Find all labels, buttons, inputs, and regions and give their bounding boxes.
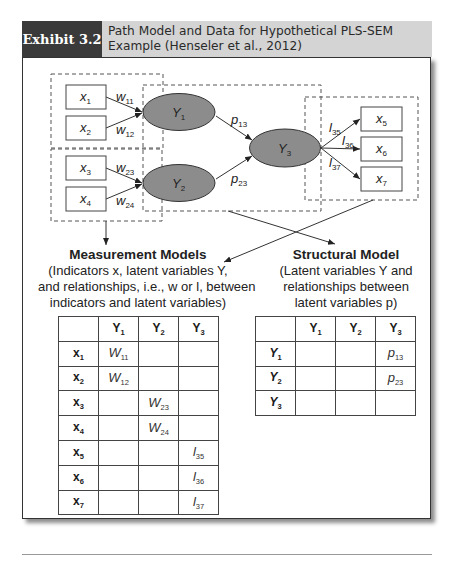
table-cell: p13 (376, 341, 416, 366)
structural-model-line-3: latent variables p) (266, 295, 426, 311)
table-cell (179, 416, 219, 441)
row-header: Y3 (256, 391, 296, 416)
column-header: Y3 (179, 317, 219, 342)
structural-model-line-2: relationships between (266, 279, 426, 295)
table-cell: W24 (139, 416, 179, 441)
table-row: Y1 p13 (256, 341, 416, 366)
column-header: Y2 (139, 317, 179, 342)
measurement-models-line-3: indicators and latent variables) (38, 295, 238, 311)
structural-model-caption: Structural Model (Latent variables Y and… (266, 247, 426, 311)
table-header-row: Y1 Y2 Y3 (59, 317, 219, 342)
table-cell (179, 366, 219, 391)
table-header-row: Y1 Y2 Y3 (256, 317, 416, 342)
column-header: Y1 (296, 317, 336, 342)
table-cell (336, 391, 376, 416)
row-header: Y2 (256, 366, 296, 391)
column-header: Y3 (376, 317, 416, 342)
measurement-models-caption: Measurement Models (Indicators x, latent… (38, 247, 238, 311)
table-cell (179, 391, 219, 416)
table-cell (296, 341, 336, 366)
row-header: x3 (59, 391, 99, 416)
label-p13: p13 (230, 112, 248, 129)
table-cell (139, 465, 179, 490)
table-cell (139, 341, 179, 366)
row-header: x1 (59, 341, 99, 366)
table-cell (139, 440, 179, 465)
table-cell: l35 (179, 440, 219, 465)
column-header: Y2 (336, 317, 376, 342)
bottom-rule (22, 554, 432, 555)
column-header: Y1 (99, 317, 139, 342)
table-row: x1 W11 (59, 341, 219, 366)
label-w12: w12 (116, 122, 135, 139)
table-cell (99, 490, 139, 515)
table-cell: W12 (99, 366, 139, 391)
table-row: x6 l36 (59, 465, 219, 490)
row-header: x2 (59, 366, 99, 391)
label-l35: l35 (329, 120, 341, 137)
label-w11: w11 (116, 89, 134, 106)
label-l36: l36 (342, 133, 354, 150)
measurement-models-line-2: and relationships, i.e., w or l, between (38, 279, 238, 295)
structural-model-table: Y1 Y2 Y3 Y1 p13 Y2 p23 Y3 (255, 316, 416, 416)
table-row: x2 W12 (59, 366, 219, 391)
table-cell (99, 416, 139, 441)
table-row: Y2 p23 (256, 366, 416, 391)
table-cell: l36 (179, 465, 219, 490)
label-w24: w24 (116, 193, 135, 210)
structural-model-title: Structural Model (266, 247, 426, 263)
table-cell (336, 341, 376, 366)
table-cell (376, 391, 416, 416)
table-row: x5 l35 (59, 440, 219, 465)
row-header: x7 (59, 490, 99, 515)
structural-model-line-1: (Latent variables Y and (266, 263, 426, 279)
table-row: x3 W23 (59, 391, 219, 416)
table-row: Y3 (256, 391, 416, 416)
table-cell: W23 (139, 391, 179, 416)
table-cell (99, 440, 139, 465)
label-p23: p23 (230, 171, 248, 188)
row-header: Y1 (256, 341, 296, 366)
table-cell: W11 (99, 341, 139, 366)
table-cell (139, 490, 179, 515)
table-cell (99, 391, 139, 416)
table-cell (139, 366, 179, 391)
measurement-models-line-1: (Indicators x, latent variables Y, (38, 263, 238, 279)
row-header: x5 (59, 440, 99, 465)
label-w23: w23 (116, 160, 135, 177)
table-cell (296, 391, 336, 416)
table-cell (336, 366, 376, 391)
table-cell: p23 (376, 366, 416, 391)
table-cell (179, 341, 219, 366)
row-header: x6 (59, 465, 99, 490)
table-row: x7 l37 (59, 490, 219, 515)
table-cell (296, 366, 336, 391)
table-cell (99, 465, 139, 490)
label-l37: l37 (329, 155, 341, 172)
table-cell: l37 (179, 490, 219, 515)
measurement-model-table: Y1 Y2 Y3 x1 W11 x2 W12 x3 W23 x4 W24 x5 … (58, 316, 219, 515)
table-row: x4 W24 (59, 416, 219, 441)
row-header: x4 (59, 416, 99, 441)
measurement-models-title: Measurement Models (38, 247, 238, 263)
